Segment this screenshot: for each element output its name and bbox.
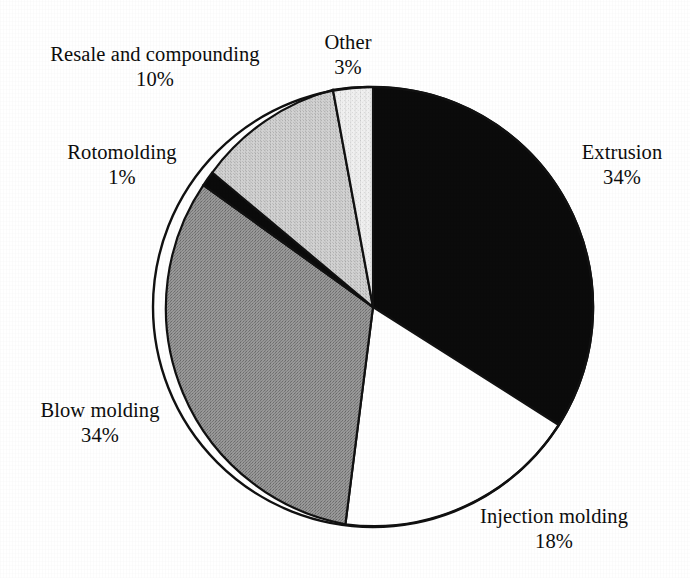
pie-slices [153, 87, 593, 527]
pie-label-blow-molding-percent: 34% [40, 423, 159, 448]
pie-label-rotomolding: Rotomolding 1% [67, 140, 176, 190]
pie-label-rotomolding-percent: 1% [67, 165, 176, 190]
pie-label-other: Other 3% [324, 30, 371, 80]
pie-label-injection-molding: Injection molding 18% [480, 504, 628, 554]
pie-label-injection-molding-name: Injection molding [480, 504, 628, 529]
pie-label-blow-molding: Blow molding 34% [40, 398, 159, 448]
pie-chart: Resale and compounding 10% Other 3% Roto… [0, 0, 690, 578]
pie-label-resale-and-compounding: Resale and compounding 10% [50, 42, 259, 92]
pie-label-extrusion-percent: 34% [582, 165, 663, 190]
pie-label-rotomolding-name: Rotomolding [67, 140, 176, 165]
pie-label-other-percent: 3% [324, 55, 371, 80]
pie-label-resale-and-compounding-percent: 10% [50, 67, 259, 92]
pie-label-injection-molding-percent: 18% [480, 529, 628, 554]
pie-label-extrusion-name: Extrusion [582, 140, 663, 165]
pie-label-resale-and-compounding-name: Resale and compounding [50, 42, 259, 67]
pie-label-extrusion: Extrusion 34% [582, 140, 663, 190]
pie-label-blow-molding-name: Blow molding [40, 398, 159, 423]
pie-label-other-name: Other [324, 30, 371, 55]
